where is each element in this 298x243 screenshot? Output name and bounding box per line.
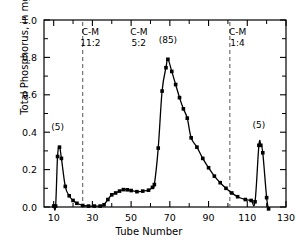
data-point-marker — [98, 204, 102, 208]
region-label-1-line2: 11:2 — [80, 38, 100, 48]
y-tick-label: 0.2 — [22, 164, 37, 175]
phosphorus-elution-chart: 10305070901101300.00.20.40.60.81.0C-M11:… — [0, 0, 298, 243]
data-point-marker — [249, 199, 253, 203]
data-point-marker — [259, 143, 263, 147]
x-tick-label: 130 — [277, 212, 295, 223]
data-point-marker — [64, 185, 68, 189]
data-point-marker — [261, 151, 265, 155]
region-label-3-line1: C-M — [229, 27, 246, 37]
data-point-marker — [160, 89, 164, 93]
data-curve — [54, 59, 269, 210]
region-label-2-line1: C-M — [130, 27, 147, 37]
data-point-marker — [207, 166, 211, 170]
data-point-marker — [147, 188, 151, 192]
data-point-marker — [129, 189, 133, 193]
data-point-marker — [110, 193, 114, 197]
data-point-marker — [267, 207, 271, 211]
chart-canvas: 10305070901101300.00.20.40.60.81.0C-M11:… — [0, 0, 298, 243]
x-tick-label: 10 — [48, 212, 60, 223]
x-tick-label: 110 — [238, 212, 256, 223]
data-point-marker — [174, 83, 178, 87]
peak-label-center: (85) — [159, 35, 177, 45]
data-point-marker — [102, 203, 106, 207]
data-point-marker — [122, 188, 126, 192]
region-label-2-line2: 5:2 — [132, 38, 146, 48]
data-point-marker — [87, 204, 91, 208]
data-point-marker — [185, 116, 189, 120]
x-tick-label: 50 — [125, 212, 137, 223]
data-point-marker — [75, 201, 79, 205]
data-point-marker — [253, 200, 257, 204]
x-tick-label: 90 — [203, 212, 215, 223]
data-point-marker — [153, 183, 157, 187]
data-point-marker — [58, 145, 62, 149]
data-point-marker — [178, 96, 182, 100]
data-point-marker — [114, 191, 118, 195]
data-point-marker — [224, 187, 228, 191]
data-point-marker — [164, 66, 168, 70]
data-point-marker — [213, 174, 217, 178]
data-point-marker — [54, 204, 58, 208]
data-point-marker — [170, 70, 174, 74]
data-point-marker — [135, 190, 139, 194]
x-axis-label: Tube Number — [0, 226, 298, 237]
y-axis-label: Total Phosphorus, in mg. — [19, 0, 30, 134]
peak-label-left: (5) — [51, 122, 64, 132]
data-point-marker — [244, 198, 248, 202]
data-point-marker — [236, 195, 240, 199]
data-point-marker — [106, 198, 110, 202]
data-point-marker — [218, 181, 222, 185]
data-point-marker — [67, 194, 71, 198]
data-point-marker — [265, 196, 269, 200]
data-point-marker — [195, 145, 199, 149]
y-tick-label: 0.0 — [22, 202, 37, 213]
data-point-marker — [60, 157, 64, 161]
data-point-marker — [125, 188, 129, 192]
data-point-marker — [71, 199, 75, 203]
data-point-marker — [201, 157, 205, 161]
data-point-marker — [56, 155, 60, 159]
data-point-marker — [141, 189, 145, 193]
data-point-marker — [81, 204, 85, 208]
data-point-marker — [166, 57, 170, 61]
data-point-marker — [230, 191, 234, 195]
x-tick-label: 30 — [86, 212, 98, 223]
region-label-3-line2: 1:4 — [230, 38, 245, 48]
peak-label-right: (5) — [253, 120, 266, 130]
data-point-marker — [93, 204, 97, 208]
data-point-marker — [156, 146, 160, 150]
data-point-marker — [118, 189, 122, 193]
data-point-marker — [189, 136, 193, 140]
data-point-marker — [182, 107, 186, 111]
region-label-1-line1: C-M — [82, 27, 99, 37]
plot-frame — [44, 20, 286, 207]
x-tick-label: 70 — [164, 212, 176, 223]
